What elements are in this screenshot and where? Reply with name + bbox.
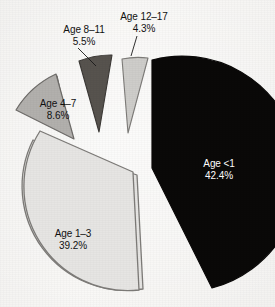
slice-label-age-1-3-value: 39.2% xyxy=(30,240,116,252)
slice-label-age-12-17: Age 12–17 4.3% xyxy=(106,11,182,34)
slice-label-age-12-17-value: 4.3% xyxy=(106,23,182,35)
slice-label-age-4-7: Age 4–7 8.6% xyxy=(22,98,94,121)
pie-chart-canvas xyxy=(0,0,275,307)
pie-chart-figure: Age <1 42.4% Age 1–3 39.2% Age 4–7 8.6% … xyxy=(0,0,275,307)
slice-label-age-8-11-value: 5.5% xyxy=(48,36,120,48)
pie-slice-age-1-3-body xyxy=(24,131,139,291)
slice-label-age-lt1-name: Age <1 xyxy=(182,158,256,170)
pie-slice-age-12-17[interactable] xyxy=(122,57,148,133)
slice-label-age-4-7-name: Age 4–7 xyxy=(22,98,94,110)
slice-label-age-lt1-value: 42.4% xyxy=(182,170,256,182)
slice-label-age-1-3-name: Age 1–3 xyxy=(30,228,116,240)
slice-label-age-4-7-value: 8.6% xyxy=(22,110,94,122)
slice-label-age-1-3: Age 1–3 39.2% xyxy=(30,228,116,251)
leader-line-age-12-17 xyxy=(131,36,137,56)
slice-label-age-lt1: Age <1 42.4% xyxy=(182,158,256,181)
slice-label-age-12-17-name: Age 12–17 xyxy=(106,11,182,23)
